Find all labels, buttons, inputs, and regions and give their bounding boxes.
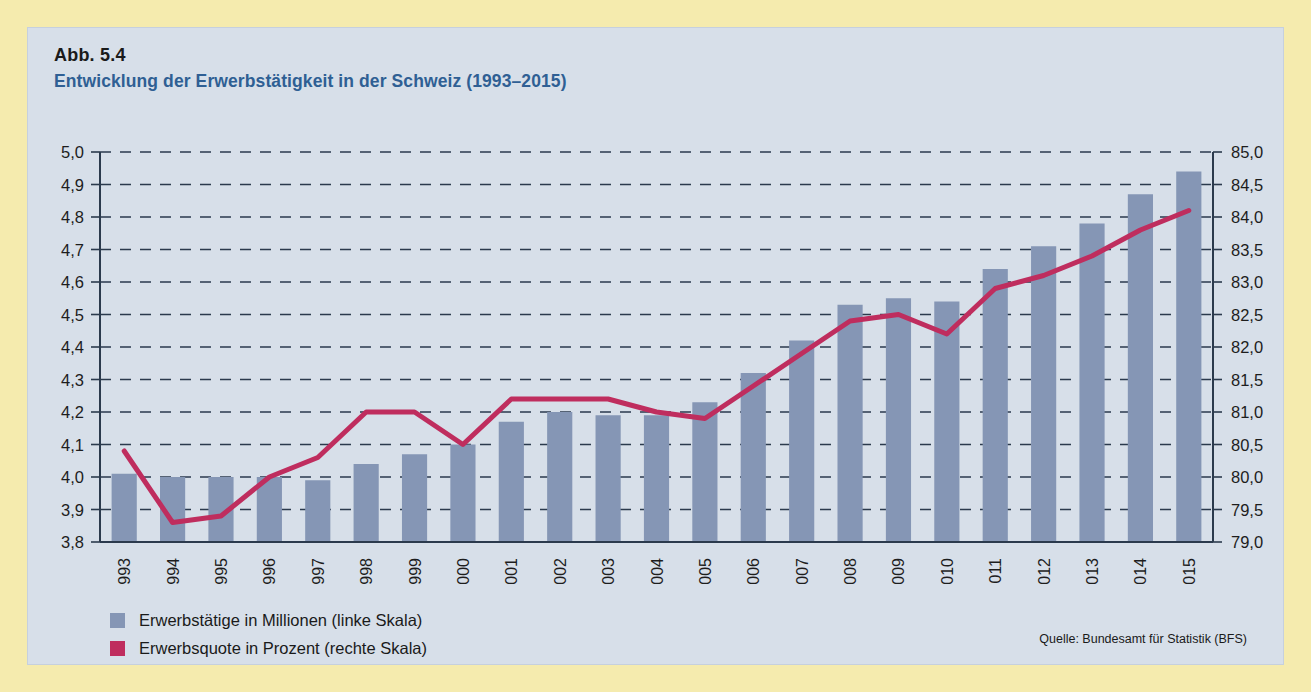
chart-bar: [354, 464, 379, 542]
right-axis-tick: 82,5: [1231, 306, 1263, 324]
left-axis-tick: 4,1: [61, 436, 84, 454]
right-axis-tick: 83,0: [1231, 273, 1263, 291]
legend-item-line: Erwerbsquote in Prozent (rechte Skala): [110, 634, 427, 662]
x-axis-tick: 2005: [697, 558, 714, 584]
x-axis-tick: 1994: [165, 558, 182, 584]
chart-bar: [450, 445, 475, 543]
x-axis-tick: 2009: [890, 558, 907, 584]
chart-bar: [837, 305, 862, 542]
chart-bar: [547, 412, 572, 542]
figure-number: Abb. 5.4: [54, 44, 567, 67]
right-axis-tick: 81,5: [1231, 371, 1263, 389]
left-axis-tick: 3,8: [61, 533, 84, 551]
right-axis-tick: 80,0: [1231, 468, 1263, 486]
right-axis-tick: 82,0: [1231, 338, 1263, 356]
x-axis-tick: 1993: [116, 558, 133, 584]
x-axis-tick: 2010: [939, 558, 956, 584]
x-axis-tick: 2014: [1132, 558, 1149, 584]
left-axis-tick: 5,0: [61, 143, 84, 161]
left-axis-tick: 3,9: [61, 501, 84, 519]
x-axis-tick: 1996: [261, 558, 278, 584]
right-axis-tick: 79,5: [1231, 501, 1263, 519]
x-axis-tick: 1995: [213, 558, 230, 584]
x-axis-tick: 2002: [552, 558, 569, 584]
x-axis-tick: 1997: [310, 558, 327, 584]
chart-bar: [983, 269, 1008, 542]
chart-svg: 5,04,94,84,74,64,54,44,34,24,14,03,93,8 …: [28, 114, 1283, 584]
right-axis-tick: 84,0: [1231, 208, 1263, 226]
legend-swatch-erwerbstaetige: [110, 613, 125, 628]
figure-caption: Abb. 5.4 Entwicklung der Erwerbstätigkei…: [54, 44, 567, 93]
x-axis-tick: 2007: [794, 558, 811, 584]
x-axis-tick: 2011: [987, 558, 1004, 584]
right-axis-tick: 83,5: [1231, 241, 1263, 259]
left-axis-tick: 4,9: [61, 176, 84, 194]
legend-item-bars: Erwerbstätige in Millionen (linke Skala): [110, 606, 427, 634]
chart-plot-area: 5,04,94,84,74,64,54,44,34,24,14,03,93,8 …: [28, 114, 1283, 584]
chart-bar: [692, 402, 717, 542]
right-axis-labels: 85,084,584,083,583,082,582,081,581,080,5…: [1231, 143, 1263, 551]
legend-label-erwerbstaetige: Erwerbstätige in Millionen (linke Skala): [139, 611, 422, 630]
x-axis-tick: 2013: [1084, 558, 1101, 584]
legend-label-erwerbsquote: Erwerbsquote in Prozent (rechte Skala): [139, 639, 427, 658]
chart-bar: [1031, 246, 1056, 542]
chart-bar: [886, 298, 911, 542]
x-axis-tick: 2003: [600, 558, 617, 584]
right-axis-tick: 84,5: [1231, 176, 1263, 194]
x-axis-tick: 2006: [745, 558, 762, 584]
chart-bar: [934, 302, 959, 543]
right-axis-tick: 79,0: [1231, 533, 1263, 551]
left-axis-labels: 5,04,94,84,74,64,54,44,34,24,14,03,93,8: [61, 143, 84, 551]
chart-bar: [1079, 224, 1104, 543]
left-axis-tick: 4,6: [61, 273, 84, 291]
x-axis-tick: 1998: [358, 558, 375, 584]
x-axis-tick: 2015: [1181, 558, 1198, 584]
left-axis-tick: 4,7: [61, 241, 84, 259]
chart-bar: [741, 373, 766, 542]
legend-swatch-erwerbsquote: [110, 641, 125, 656]
chart-legend: Erwerbstätige in Millionen (linke Skala)…: [110, 606, 427, 662]
right-axis-tick: 80,5: [1231, 436, 1263, 454]
left-axis-tick: 4,3: [61, 371, 84, 389]
source-note: Quelle: Bundesamt für Statistik (BFS): [1039, 632, 1247, 646]
chart-bar: [596, 415, 621, 542]
x-axis-tick: 2000: [455, 558, 472, 584]
left-axis-tick: 4,8: [61, 208, 84, 226]
chart-bar: [112, 474, 137, 542]
chart-bar: [499, 422, 524, 542]
chart-bar: [305, 480, 330, 542]
chart-bar: [1176, 172, 1201, 543]
chart-bar: [402, 454, 427, 542]
left-axis-tick: 4,4: [61, 338, 84, 356]
chart-bar: [1128, 194, 1153, 542]
x-axis-labels: 1993199419951996199719981999200020012002…: [116, 558, 1198, 584]
chart-bar: [644, 415, 669, 542]
left-axis-tick: 4,2: [61, 403, 84, 421]
x-axis-tick: 2001: [503, 558, 520, 584]
left-axis-tick: 4,0: [61, 468, 84, 486]
x-axis-tick: 2004: [649, 558, 666, 584]
right-axis-tick: 81,0: [1231, 403, 1263, 421]
left-axis-tick: 4,5: [61, 306, 84, 324]
right-axis-tick: 85,0: [1231, 143, 1263, 161]
chart-bars: [112, 172, 1202, 543]
page-title: Entwicklung der Erwerbstätigkeit in der …: [54, 70, 567, 94]
figure-panel: Abb. 5.4 Entwicklung der Erwerbstätigkei…: [28, 28, 1283, 664]
x-axis-tick: 1999: [407, 558, 424, 584]
x-axis-tick: 2012: [1036, 558, 1053, 584]
chart-bar: [789, 341, 814, 543]
x-axis-tick: 2008: [842, 558, 859, 584]
